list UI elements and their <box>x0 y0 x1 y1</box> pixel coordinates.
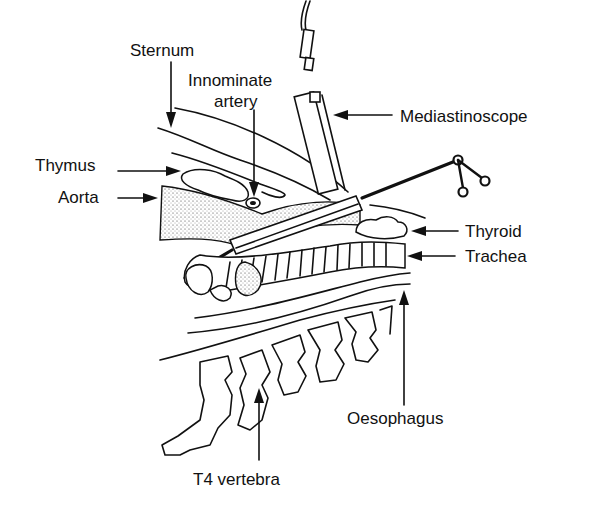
label-trachea: Trachea <box>465 247 527 266</box>
label-aorta: Aorta <box>58 188 99 207</box>
label-thymus: Thymus <box>35 156 95 175</box>
thyroid-shape <box>356 217 407 239</box>
mediastinoscopy-diagram: Sternum Innominate artery Mediastinoscop… <box>0 0 590 505</box>
neck-skin-line <box>370 205 425 218</box>
label-sternum: Sternum <box>130 41 194 60</box>
label-innominate-artery-line1: Innominate <box>188 71 272 90</box>
label-mediastinoscope: Mediastinoscope <box>400 107 528 126</box>
vertebral-column <box>160 300 395 455</box>
innominate-artery-shape <box>246 198 260 208</box>
label-oesophagus: Oesophagus <box>347 409 443 428</box>
label-innominate-artery-line2: artery <box>214 92 258 111</box>
label-t4-vertebra: T4 vertebra <box>193 470 280 489</box>
label-thyroid: Thyroid <box>465 222 522 241</box>
trachea-shape <box>184 242 405 301</box>
